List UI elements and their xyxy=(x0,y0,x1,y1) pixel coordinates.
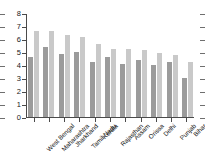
y-axis-tick-label: 6 xyxy=(17,36,21,44)
y-axis-tick-label: 1 xyxy=(17,101,21,109)
bar-group xyxy=(182,14,193,117)
y-axis-tick xyxy=(22,79,26,80)
bar-group xyxy=(43,14,54,117)
bar-group xyxy=(59,14,70,117)
bar xyxy=(120,64,125,117)
bar xyxy=(49,31,54,117)
y-axis-tick xyxy=(22,92,26,93)
y-axis-tick-label: 0 xyxy=(17,114,21,122)
bar-group xyxy=(167,14,178,117)
bar xyxy=(74,52,79,117)
y-axis-tick xyxy=(22,66,26,67)
bar xyxy=(173,55,178,117)
outer-tick xyxy=(0,118,5,119)
bar xyxy=(90,62,95,117)
outer-tick xyxy=(0,40,5,41)
outer-tick xyxy=(200,66,205,67)
y-axis-tick-label: 2 xyxy=(17,88,21,96)
bar xyxy=(34,31,39,117)
y-axis-tick xyxy=(22,14,26,15)
outer-tick xyxy=(0,14,5,15)
bar xyxy=(136,60,141,117)
y-axis-tick-label: 5 xyxy=(17,49,21,57)
y-axis-tick-label: 7 xyxy=(17,23,21,31)
outer-tick xyxy=(200,105,205,106)
bar-group xyxy=(28,14,39,117)
bar xyxy=(96,44,101,117)
y-axis-tick xyxy=(22,27,26,28)
bar xyxy=(157,53,162,117)
outer-tick xyxy=(0,66,5,67)
y-axis-tick xyxy=(22,40,26,41)
outer-tick xyxy=(200,14,205,15)
y-axis-tick-label: 4 xyxy=(17,62,21,70)
bar xyxy=(182,78,187,117)
outer-tick xyxy=(200,92,205,93)
bar xyxy=(111,49,116,117)
bar-group xyxy=(120,14,131,117)
bar xyxy=(151,65,156,117)
outer-tick xyxy=(0,27,5,28)
outer-tick xyxy=(200,53,205,54)
bar xyxy=(80,37,85,117)
x-axis-label: Kerala xyxy=(102,123,120,141)
bar-group xyxy=(136,14,147,117)
plot-area: 012345678 xyxy=(26,14,194,118)
bar xyxy=(105,57,110,117)
outer-tick xyxy=(200,40,205,41)
bar-group xyxy=(105,14,116,117)
outer-tick xyxy=(200,118,205,119)
y-axis-tick xyxy=(22,53,26,54)
bar xyxy=(28,57,33,117)
outer-tick xyxy=(0,79,5,80)
y-axis-tick-label: 8 xyxy=(17,10,21,18)
bar xyxy=(43,47,48,117)
x-axis-label: Delhi xyxy=(162,123,177,138)
outer-tick xyxy=(200,27,205,28)
y-axis-tick xyxy=(22,118,26,119)
bar xyxy=(188,62,193,117)
y-axis-tick-label: 3 xyxy=(17,75,21,83)
y-axis-tick xyxy=(22,105,26,106)
bar-group xyxy=(90,14,101,117)
outer-tick xyxy=(200,79,205,80)
bar-chart: 012345678 West BengalMaharashtraJharkhan… xyxy=(0,0,205,160)
bar-group xyxy=(74,14,85,117)
bar xyxy=(142,50,147,117)
outer-tick xyxy=(0,105,5,106)
outer-tick xyxy=(0,53,5,54)
x-axis-labels: West BengalMaharashtraJharkhandTamil Nad… xyxy=(26,120,196,160)
left-tick-rail xyxy=(0,0,8,160)
bar xyxy=(126,49,131,117)
bar xyxy=(59,54,64,117)
bar xyxy=(65,35,70,117)
bar xyxy=(167,62,172,117)
outer-tick xyxy=(0,92,5,93)
bar-group xyxy=(151,14,162,117)
bar-series-container xyxy=(27,14,194,117)
